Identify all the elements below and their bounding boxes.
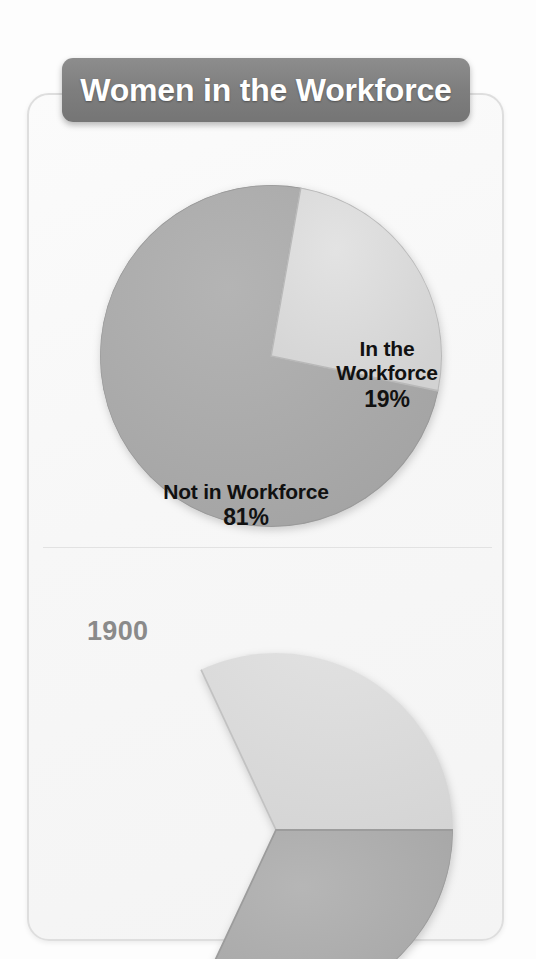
chart-title-banner: Women in the Workforce (62, 58, 470, 122)
pie-1900-svg (100, 185, 442, 527)
panel-1900: In the Workforce 19% Not in Workforce 81… (29, 125, 502, 550)
pie-2000-svg (99, 653, 453, 959)
chart-card: In the Workforce 19% Not in Workforce 81… (27, 93, 504, 941)
pie-chart-2000 (99, 653, 453, 959)
pie-2000-slice-not-in-workforce (201, 830, 453, 959)
pie-1900-slice-in-workforce (271, 188, 442, 391)
pie-chart-1900 (100, 185, 442, 527)
page-title: Women in the Workforce (80, 72, 451, 109)
panel-2000: In the Workforce 57% Not in Workforce 43… (29, 553, 502, 941)
pie-2000-slice-in-workforce (201, 653, 453, 830)
